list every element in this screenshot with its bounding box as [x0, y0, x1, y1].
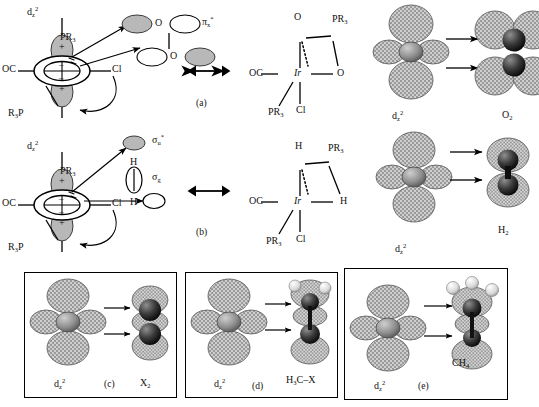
label-dz2-e: dz2	[374, 380, 385, 393]
dotted-bond-a	[302, 42, 308, 66]
sign-minus-upper-a: –	[59, 60, 64, 69]
label-oc-b: OC	[2, 198, 16, 208]
dz2-orbital-o2	[373, 5, 449, 99]
panel-tag-e: (e)	[418, 382, 429, 392]
label-h-lower-b: H	[130, 197, 137, 207]
label-h2-product: H2	[498, 225, 508, 237]
label-h3cx-product: H3C–X	[286, 375, 315, 387]
orbital-pair-h3cx	[191, 276, 333, 380]
label-cl-right-a: Cl	[296, 105, 305, 115]
h2-acceptor-lobe	[143, 194, 165, 209]
sign-plus-lower-a: +	[59, 84, 65, 94]
sign-minus-upper-b: –	[59, 194, 64, 203]
orbital-pair-ch4	[350, 274, 502, 380]
panel-tag-a: (a)	[196, 99, 207, 109]
orbital-pair-x2	[30, 276, 172, 380]
bond-pr3-h-b	[329, 166, 340, 194]
panel-tag-b: (b)	[196, 228, 207, 238]
label-r3p-b: R3P	[8, 242, 23, 254]
o2-lobe-shaded-top	[122, 15, 152, 33]
label-r3p-a: R3P	[8, 108, 23, 120]
dz2-orbital-x2	[30, 279, 106, 365]
label-cl-b: Cl	[112, 198, 121, 208]
panel-a-right-structure	[245, 8, 375, 126]
o2-lobe-white-bottom	[137, 48, 167, 66]
panel-tag-c: (c)	[104, 380, 115, 390]
o2-product-orbital	[475, 11, 539, 95]
label-o-equatorial-a: O	[337, 68, 344, 78]
sign-plus-upper-a: +	[59, 42, 65, 52]
label-pr3-lower-b: PR3	[266, 236, 281, 248]
label-x2-product: X2	[140, 378, 150, 390]
label-dz2-o2: dz2	[392, 110, 403, 123]
label-dz2-d: dz2	[214, 378, 225, 391]
ch4-product-orbital	[447, 277, 499, 370]
bond-ir-pr3	[279, 82, 293, 106]
label-cl-a: Cl	[112, 64, 121, 74]
label-h-upper-b: H	[130, 157, 137, 167]
label-oc-right-a: OC	[249, 68, 263, 78]
label-sigma-g: σg	[152, 172, 161, 184]
label-o-bottom-a: O	[170, 51, 177, 61]
label-oc-right-b: OC	[249, 196, 263, 206]
label-oc-a: OC	[2, 64, 16, 74]
resonance-arrow-a	[186, 62, 232, 80]
bond-pr3-o	[333, 41, 338, 66]
label-sigma-u-star: σu*	[152, 134, 164, 147]
o2-lobe-white-top	[170, 15, 200, 33]
label-ch4-product: CH4	[452, 358, 469, 370]
dz2-orbital-h2	[376, 132, 452, 222]
figure-root: dz2 PR3 OC Cl R3P + + – – O O πx* (a)	[0, 0, 539, 407]
orbital-pair-h2	[374, 128, 539, 240]
label-pr3-lower-a: PR3	[268, 107, 283, 119]
dz2-orbital-h3cx	[191, 279, 267, 365]
dz2-orbital-ch4	[350, 285, 426, 371]
label-dz2-h2: dz2	[395, 243, 406, 256]
label-pr3-upper-b: PR3	[328, 143, 343, 155]
resonance-arrow-b	[186, 182, 232, 200]
panel-tag-d: (d)	[252, 382, 263, 392]
bond-h-pr3-b	[305, 162, 329, 164]
h2-product-orbital	[487, 138, 529, 207]
x2-product-orbital	[132, 286, 168, 360]
arrow-donation-upper-b	[72, 148, 126, 192]
arrow-backdonation	[80, 76, 116, 111]
label-ir-a: Ir	[294, 68, 301, 78]
label-o2-product: O2	[502, 110, 512, 122]
label-ir-b: Ir	[294, 196, 301, 206]
bond-ir-pr3-b	[279, 210, 293, 234]
sign-plus-lower-b: +	[59, 218, 65, 228]
panel-b-right-structure	[245, 138, 375, 256]
label-o-axial-a: O	[294, 12, 301, 22]
label-dz2-c: dz2	[54, 378, 65, 391]
sigma-u-star-lobe	[123, 136, 145, 150]
label-h-axial-b: H	[295, 141, 302, 151]
h3cx-product-orbital	[289, 280, 331, 364]
label-pr3-upper-a: PR3	[332, 14, 347, 26]
bond-o-pr3	[306, 36, 331, 38]
label-pi-x-star: πx*	[202, 16, 214, 29]
arrow-backdonation-b	[80, 210, 116, 245]
label-h-equatorial-b: H	[340, 196, 347, 206]
orbital-pair-o2	[374, 2, 539, 120]
label-dz2-panel-a: dz2	[27, 6, 38, 19]
label-o-top-a: O	[155, 18, 162, 28]
sign-plus-upper-b: +	[59, 176, 65, 186]
dotted-bond-b	[302, 170, 308, 194]
label-cl-right-b: Cl	[296, 234, 305, 244]
sign-minus-lower-b: –	[59, 207, 64, 216]
label-dz2-panel-b: dz2	[27, 140, 38, 153]
arrow-donation-lower	[80, 48, 140, 66]
sign-minus-lower-a: –	[59, 73, 64, 82]
arrow-donation-upper	[72, 26, 126, 57]
